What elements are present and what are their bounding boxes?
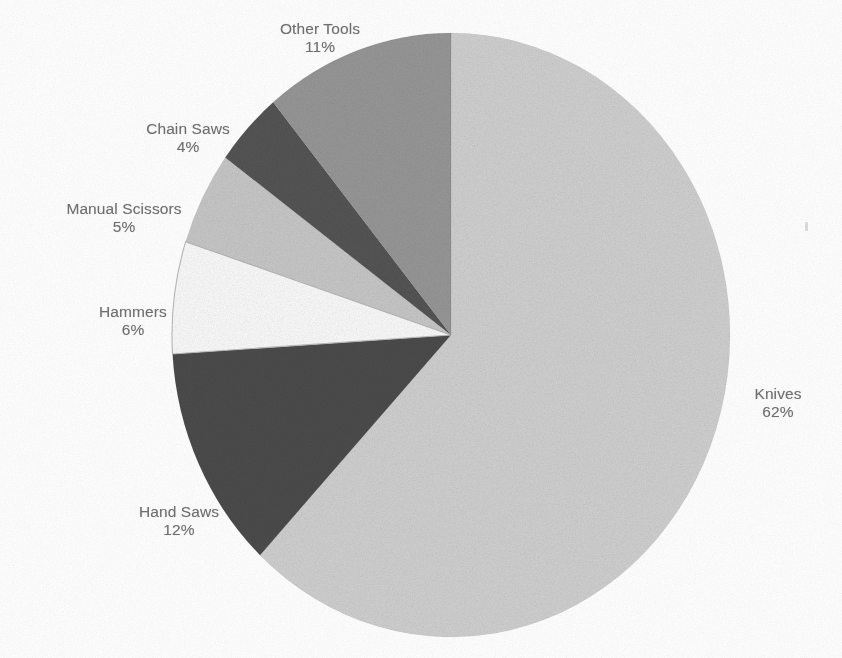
slice-label-hand-saws-name: Hand Saws	[139, 503, 219, 520]
slice-label-hand-saws-percent: 12%	[96, 521, 262, 539]
slice-label-chain-saws-name: Chain Saws	[146, 120, 230, 137]
scan-artifact-speck	[805, 222, 808, 231]
slice-label-chain-saws: Chain Saws 4%	[108, 120, 268, 156]
slice-label-chain-saws-percent: 4%	[108, 138, 268, 156]
slice-label-manual-scissors-name: Manual Scissors	[66, 200, 181, 217]
slice-label-knives-name: Knives	[754, 385, 801, 402]
slice-label-hammers-name: Hammers	[99, 303, 167, 320]
pie-chart: Other Tools 11% Chain Saws 4% Manual Sci…	[0, 0, 842, 658]
slice-label-other-tools-percent: 11%	[240, 38, 400, 56]
slice-label-knives-percent: 62%	[726, 403, 830, 421]
slice-label-hammers: Hammers 6%	[58, 303, 208, 339]
slice-label-hammers-percent: 6%	[58, 321, 208, 339]
slice-label-manual-scissors: Manual Scissors 5%	[26, 200, 222, 236]
slice-label-hand-saws: Hand Saws 12%	[96, 503, 262, 539]
slice-label-manual-scissors-percent: 5%	[26, 218, 222, 236]
slice-label-other-tools-name: Other Tools	[280, 20, 360, 37]
slice-label-other-tools: Other Tools 11%	[240, 20, 400, 56]
slice-label-knives: Knives 62%	[726, 385, 830, 421]
